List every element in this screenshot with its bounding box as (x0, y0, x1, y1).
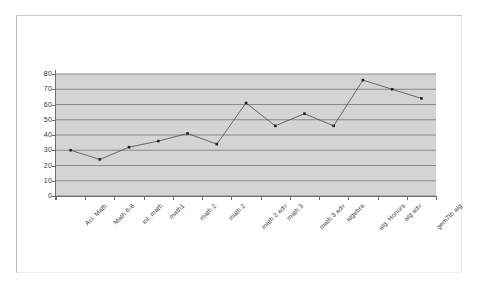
data-point (332, 125, 335, 128)
x-axis-labels: Acl. MathMath 6-8int. mathmath1math 2mat… (56, 202, 437, 272)
scanned-page: 80706050403020100 Acl. MathMath 6-8int. … (0, 0, 478, 290)
x-axis-tick-label: Acl. Math (83, 202, 108, 227)
x-axis-tick-label: algebra (344, 202, 365, 223)
data-point (362, 79, 365, 82)
x-axis-tick-label: alg adv (402, 202, 422, 222)
y-axis-tick-label: 80 (44, 70, 52, 78)
data-point (99, 158, 102, 161)
x-axis-tick (231, 196, 232, 200)
x-axis-tick-label: math1 (168, 202, 186, 220)
x-axis-tick (407, 196, 408, 200)
data-point (274, 125, 277, 128)
x-axis-tick-label: math 2 (227, 202, 246, 221)
y-axis-tick-label: 30 (44, 146, 52, 154)
x-axis-tick-label: math 3 (285, 202, 304, 221)
y-axis-tick-label: 60 (44, 101, 52, 109)
x-axis-tick (378, 196, 379, 200)
x-axis-tick (202, 196, 203, 200)
y-axis-labels: 80706050403020100 (35, 60, 52, 200)
x-axis-tick (261, 196, 262, 200)
plot-svg (56, 74, 436, 196)
data-point (128, 146, 131, 149)
data-point (69, 149, 72, 152)
x-axis-tick (114, 196, 115, 200)
y-axis-tick-label: 50 (44, 116, 52, 124)
x-axis-tick-label: math 2 (198, 202, 217, 221)
x-axis-ticks (56, 196, 437, 201)
data-point (215, 143, 218, 146)
data-point (391, 88, 394, 91)
x-axis-tick (290, 196, 291, 200)
plot-area (56, 74, 436, 196)
x-axis-tick-label: math 3 adv (318, 202, 346, 230)
data-point (303, 112, 306, 115)
x-axis-tick (348, 196, 349, 200)
x-axis-tick (436, 196, 437, 200)
x-axis-tick (85, 196, 86, 200)
x-axis-tick-label: Math 6-8 (112, 202, 136, 226)
data-point (245, 102, 248, 105)
x-axis-tick (319, 196, 320, 200)
y-axis-tick-label: 70 (44, 85, 52, 93)
x-axis-tick (144, 196, 145, 200)
gridlines (56, 74, 436, 196)
y-axis-tick-label: 40 (44, 131, 52, 139)
data-point (420, 97, 423, 100)
y-axis-tick-label: 10 (44, 177, 52, 185)
x-axis-tick (173, 196, 174, 200)
y-axis-tick-label: 20 (44, 162, 52, 170)
line-chart: 80706050403020100 Acl. MathMath 6-8int. … (35, 60, 455, 275)
data-point (186, 132, 189, 135)
x-axis-tick (56, 196, 57, 200)
x-axis-tick-label: int. math (141, 202, 164, 225)
data-point (157, 140, 160, 143)
